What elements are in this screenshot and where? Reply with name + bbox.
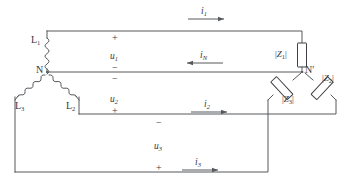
voltage-label-u1: u1 xyxy=(110,52,118,62)
source-label-l2: L2 xyxy=(66,101,75,111)
coil-l2 xyxy=(49,75,79,100)
node-dot-n xyxy=(46,71,48,73)
voltage-u3-plus: + xyxy=(156,163,162,173)
impedance-label-z1: |Z1| xyxy=(275,50,287,59)
wire-line3 xyxy=(15,100,268,172)
schematic-svg xyxy=(0,0,350,189)
voltage-u2-plus: + xyxy=(112,106,118,116)
circuit-diagram: L1 N L2 L3 N′ |Z1| |Z2| |Z3| + u1 − − u2… xyxy=(0,0,350,189)
voltage-u3-minus: − xyxy=(156,118,162,128)
voltage-label-u2: u2 xyxy=(110,95,118,105)
node-dot-n-prime xyxy=(301,71,303,73)
source-label-l1: L1 xyxy=(31,35,40,45)
source-label-n: N xyxy=(36,65,43,75)
voltage-u1-plus: + xyxy=(112,33,118,43)
coil-l3 xyxy=(15,75,45,100)
impedance-label-z2: |Z2| xyxy=(322,74,334,83)
source-label-l3: L3 xyxy=(15,101,24,111)
voltage-u2-minus: − xyxy=(112,74,118,84)
load-label-n-prime: N′ xyxy=(305,65,314,75)
current-arrow-in xyxy=(187,61,223,65)
impedance-label-z3: |Z3| xyxy=(282,95,294,104)
current-label-i2: i2 xyxy=(204,100,210,110)
current-arrow-i1 xyxy=(188,17,224,21)
current-label-in: iN xyxy=(200,51,207,61)
current-label-i3: i3 xyxy=(195,158,201,168)
voltage-label-u3: u3 xyxy=(154,142,162,152)
voltage-u1-minus: − xyxy=(112,63,118,73)
wire-line1 xyxy=(47,31,302,43)
current-label-i1: i1 xyxy=(201,7,207,17)
